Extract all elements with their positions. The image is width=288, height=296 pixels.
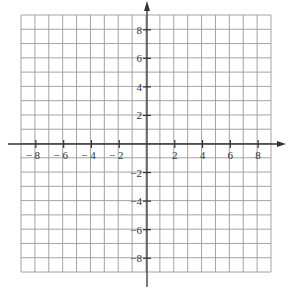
y-axis-arrow-icon bbox=[144, 1, 150, 11]
y-tick-label: −8 bbox=[130, 252, 142, 264]
coordinate-plane: − 8− 6− 4− 22468 8642−2−4−6−8 bbox=[0, 0, 288, 296]
y-tick-label: 2 bbox=[137, 109, 143, 121]
x-tick-label: 6 bbox=[228, 149, 234, 161]
x-axis-arrow-icon bbox=[277, 141, 286, 147]
y-tick-label: 8 bbox=[137, 24, 143, 36]
x-tick-label: − 8 bbox=[26, 149, 41, 161]
x-tick-label: 4 bbox=[200, 149, 206, 161]
x-tick-label: − 4 bbox=[81, 149, 96, 161]
x-axis-labels: − 8− 6− 4− 22468 bbox=[26, 149, 262, 161]
x-tick-label: − 6 bbox=[53, 149, 68, 161]
y-tick-label: −6 bbox=[130, 224, 142, 236]
y-tick-label: 6 bbox=[137, 52, 143, 64]
x-tick-label: 8 bbox=[255, 149, 261, 161]
y-tick-label: −2 bbox=[130, 167, 142, 179]
y-tick-label: 4 bbox=[137, 81, 143, 93]
y-tick-label: −4 bbox=[130, 195, 142, 207]
x-tick-label: 2 bbox=[172, 149, 178, 161]
x-tick-label: − 2 bbox=[109, 149, 123, 161]
